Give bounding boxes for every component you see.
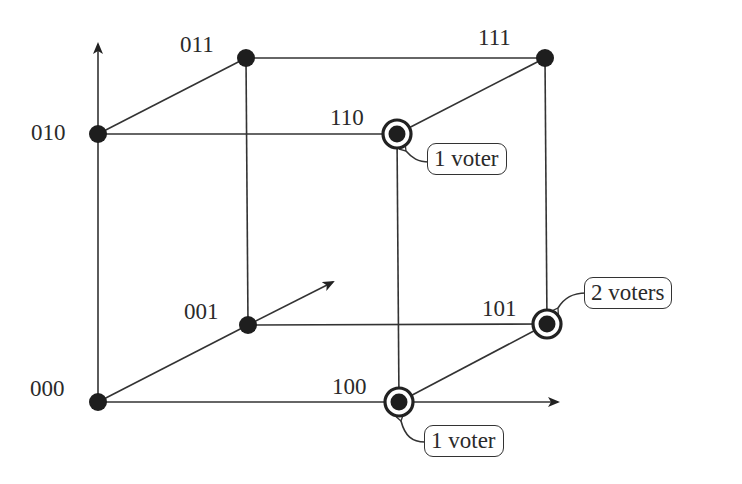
callout-101-voter-count: 2 voters bbox=[584, 277, 672, 309]
z-axis-extension bbox=[248, 282, 333, 325]
vertex-node-100-voted bbox=[385, 388, 413, 416]
vertex-label-110: 110 bbox=[330, 106, 364, 129]
vertex-label-001: 001 bbox=[184, 300, 219, 323]
callout-110-voter-count: 1 voter bbox=[427, 143, 507, 175]
vertex-label-000: 000 bbox=[30, 377, 65, 400]
edge-010-011 bbox=[98, 58, 246, 134]
callout-leader-101 bbox=[558, 293, 586, 308]
vertex-node-010 bbox=[89, 125, 107, 143]
vertex-label-011: 011 bbox=[180, 33, 214, 56]
edge-001-011 bbox=[246, 58, 248, 325]
edge-000-001 bbox=[98, 325, 248, 402]
vertex-node-001 bbox=[239, 316, 257, 334]
vertex-label-101: 101 bbox=[482, 297, 517, 320]
edge-100-110 bbox=[397, 134, 399, 402]
vertex-node-110-voted bbox=[383, 120, 411, 148]
vertex-label-100: 100 bbox=[332, 375, 367, 398]
vertex-node-111 bbox=[536, 49, 554, 67]
vertex-node-101-voted bbox=[533, 310, 561, 338]
callout-leader-100 bbox=[401, 421, 425, 442]
vertex-node-000 bbox=[89, 393, 107, 411]
cube-diagram bbox=[0, 0, 742, 484]
vertex-label-010: 010 bbox=[31, 121, 66, 144]
edge-100-101 bbox=[399, 324, 547, 402]
edge-001-101 bbox=[248, 324, 547, 325]
edge-101-111 bbox=[545, 58, 547, 324]
vertex-label-111: 111 bbox=[478, 26, 511, 49]
callout-100-voter-count: 1 voter bbox=[424, 425, 504, 457]
edge-110-111 bbox=[397, 58, 545, 134]
callout-leader-110 bbox=[406, 151, 429, 162]
vertex-node-011 bbox=[237, 49, 255, 67]
